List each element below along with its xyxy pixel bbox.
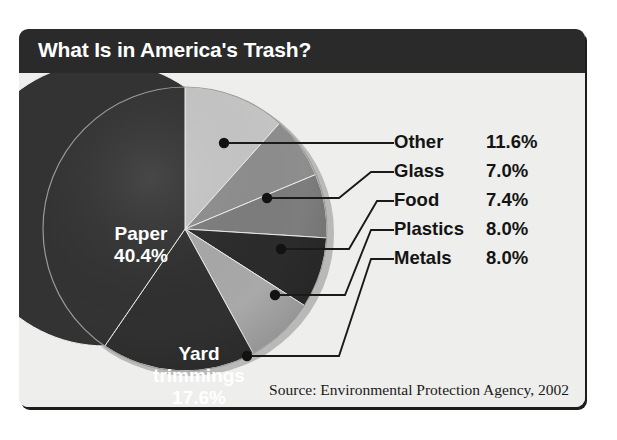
legend-value-plastics: 8.0%	[486, 218, 528, 240]
legend-label-plastics: Plastics	[394, 218, 464, 240]
slice-label-paper: Paper 40.4%	[81, 223, 201, 267]
plot-area: Paper 40.4% Yard trimmings 17.6% Other 1…	[19, 73, 585, 407]
leader-dot-food	[276, 244, 286, 254]
leader-dot-glass	[262, 193, 272, 203]
legend-label-other: Other	[394, 131, 443, 153]
title-bar: What Is in America's Trash?	[19, 29, 585, 73]
legend-value-metals: 8.0%	[486, 247, 528, 269]
source-note: Source: Environmental Protection Agency,…	[269, 381, 569, 399]
legend-label-food: Food	[394, 189, 439, 211]
pie-slices	[19, 73, 327, 371]
legend-value-other: 11.6%	[486, 131, 537, 153]
legend-value-food: 7.4%	[486, 189, 528, 211]
leader-dot-plastics	[270, 290, 280, 300]
legend-item-glass[interactable]: Glass 7.0%	[394, 160, 584, 189]
legend-item-food[interactable]: Food 7.4%	[394, 189, 584, 218]
legend-item-other[interactable]: Other 11.6%	[394, 131, 584, 160]
slice-label-paper-value: 40.4%	[81, 245, 201, 267]
slice-label-yard-trimmings: Yard trimmings 17.6%	[129, 343, 269, 407]
legend-item-plastics[interactable]: Plastics 8.0%	[394, 218, 584, 247]
slice-label-yard-name-line1: Yard	[129, 343, 269, 365]
leader-dot-other	[219, 138, 229, 148]
legend-label-glass: Glass	[394, 160, 444, 182]
chart-figure: What Is in America's Trash?	[19, 29, 585, 407]
legend: Other 11.6% Glass 7.0% Food 7.4% Plastic…	[394, 131, 584, 276]
slice-label-yard-name-line2: trimmings	[129, 365, 269, 387]
page-title: What Is in America's Trash?	[38, 38, 311, 62]
legend-label-metals: Metals	[394, 247, 452, 269]
slice-label-paper-name: Paper	[81, 223, 201, 245]
legend-item-metals[interactable]: Metals 8.0%	[394, 247, 584, 276]
legend-value-glass: 7.0%	[486, 160, 528, 182]
slice-label-yard-value: 17.6%	[129, 387, 269, 407]
